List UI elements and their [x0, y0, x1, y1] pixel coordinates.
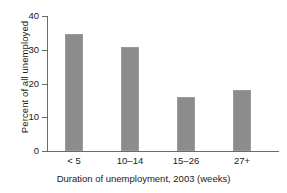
y-tick-label-10: 10 — [17, 112, 39, 122]
y-tick-label-30: 30 — [17, 45, 39, 55]
y-tick-label-0: 0 — [17, 146, 39, 156]
x-axis-line — [44, 151, 279, 152]
y-tick-mark — [42, 16, 47, 17]
y-tick-mark — [42, 84, 47, 85]
y-tick-mark — [42, 117, 47, 118]
bar-2 — [177, 97, 195, 151]
y-tick-label-20: 20 — [17, 79, 39, 89]
bar-3 — [233, 90, 251, 151]
x-axis-title: Duration of unemployment, 2003 (weeks) — [0, 173, 287, 185]
y-tick-label-wrap: 10 — [12, 112, 39, 122]
bar-1 — [121, 47, 139, 151]
y-tick-mark — [42, 50, 47, 51]
bar-chart: Percent of all unemployed 40 30 20 10 0 … — [0, 0, 287, 193]
y-tick-label-wrap: 30 — [12, 45, 39, 55]
bar-0 — [65, 34, 83, 151]
y-axis-line — [47, 16, 48, 152]
y-tick-label-wrap: 0 — [12, 146, 39, 156]
y-tick-label-wrap: 20 — [12, 79, 39, 89]
y-tick-label-40: 40 — [17, 11, 39, 21]
x-tick-label-3: 27+ — [207, 155, 277, 167]
y-tick-label-wrap: 40 — [12, 11, 39, 21]
y-axis-title: Percent of all unemployed — [18, 1, 32, 153]
y-tick-mark — [42, 151, 47, 152]
